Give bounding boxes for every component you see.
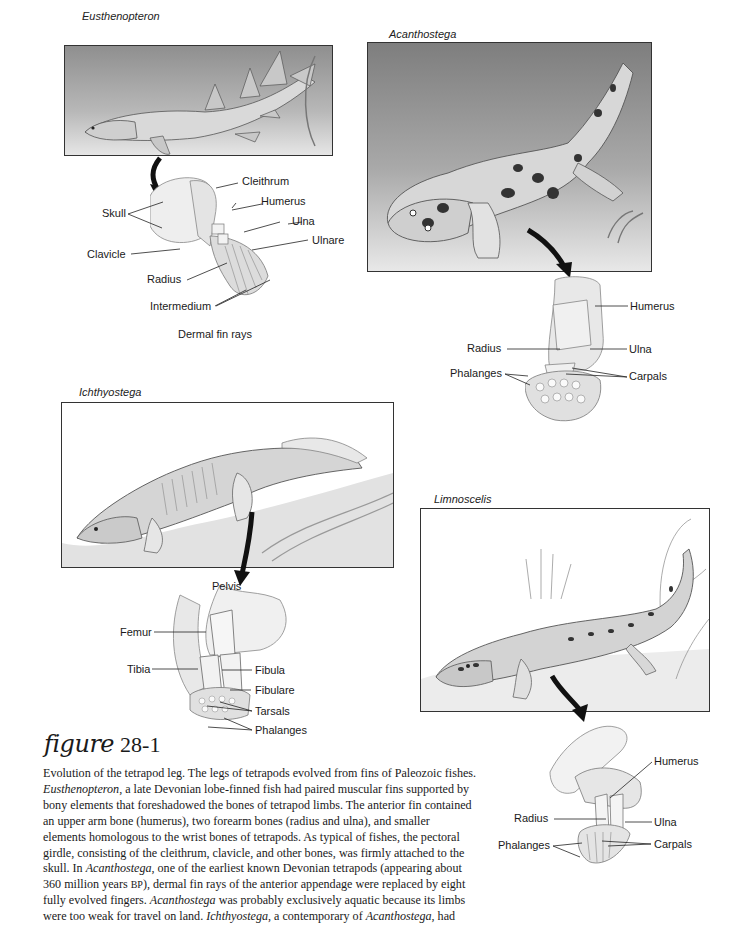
caption-line: Eusthenopteron, a late Devonian lobe-fin… [43,782,455,798]
label-humerus: Humerus [654,755,699,767]
eusthenopteron-illustration [64,45,333,156]
label-skull: Skull [102,207,126,219]
label-clavicle: Clavicle [87,248,126,260]
caption-line: were too weak for travel on land. Ichthy… [43,909,455,925]
caption-line: bony elements that foreshadowed the bone… [43,798,455,814]
caption-line: girdle, consisting of the cleithrum, cla… [43,846,455,862]
label-phalanges: Phalanges [255,724,307,736]
label-tibia: Tibia [127,663,150,675]
label-phalanges: Phalanges [450,367,502,379]
figure-caption: Evolution of the tetrapod leg. The legs … [43,766,455,925]
label-carpals: Carpals [654,838,692,850]
ichthyostega-title: Ichthyostega [79,386,141,398]
label-cleithrum: Cleithrum [242,175,289,187]
ichthyostega-hindlimb-skeleton [170,585,290,720]
label-ulna: Ulna [654,816,677,828]
label-radius: Radius [514,812,548,824]
label-ulnare: Ulnare [312,234,344,246]
acanthostega-forelimb-skeleton [525,275,625,425]
label-radius: Radius [467,342,501,354]
limnoscelis-title: Limnoscelis [434,493,491,505]
figure-number: 28-1 [120,732,160,757]
caption-line: fully evolved fingers. Acanthostega was … [43,893,455,909]
caption-line: 360 million years BP), dermal fin rays o… [43,877,455,893]
label-humerus: Humerus [630,300,675,312]
figure-title: figure28-1 [44,730,160,758]
label-pelvis: Pelvis [212,580,241,592]
acanthostega-title: Acanthostega [389,28,456,40]
caption-line: elements homologous to the wrist bones o… [43,830,455,846]
label-ulna: Ulna [292,215,315,227]
label-ulna: Ulna [629,343,652,355]
label-femur: Femur [120,626,152,638]
label-fibulare: Fibulare [255,684,295,696]
acanthostega-illustration [367,42,652,272]
label-radius: Radius [147,273,181,285]
caption-line: Evolution of the tetrapod leg. The legs … [43,766,455,782]
label-humerus: Humerus [261,195,306,207]
caption-line: skull. In Acanthostega, one of the earli… [43,861,455,877]
label-phalanges: Phalanges [498,839,550,851]
label-tarsals: Tarsals [255,705,290,717]
eusthenopteron-title: Eusthenopteron [82,10,160,22]
label-carpals: Carpals [629,370,667,382]
caption-line: an upper arm bone (humerus), two forearm… [43,814,455,830]
eusthenopteron-fin-skeleton [150,176,270,306]
label-fibula: Fibula [255,664,285,676]
limnoscelis-illustration [420,508,710,712]
figure-word: figure [44,730,114,758]
limnoscelis-forelimb-skeleton [545,722,665,872]
label-dermal-fin-rays: Dermal fin rays [178,328,252,340]
ichthyostega-illustration [61,402,394,568]
label-intermedium: Intermedium [150,300,211,312]
